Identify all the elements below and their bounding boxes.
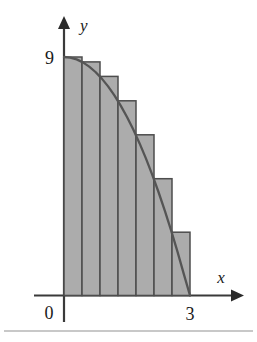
riemann-bar	[100, 76, 118, 295]
riemann-bar	[154, 179, 172, 296]
riemann-bar	[64, 57, 82, 296]
x-axis-label: x	[216, 268, 225, 287]
x-tick-label-3: 3	[186, 304, 195, 324]
y-axis-label: y	[78, 16, 88, 35]
y-tick-label-9: 9	[45, 48, 54, 68]
origin-label: 0	[45, 303, 54, 323]
riemann-sum-figure: 9 0 3 y x	[0, 0, 257, 342]
riemann-bar	[82, 62, 100, 296]
figure-container: 9 0 3 y x	[0, 0, 257, 342]
